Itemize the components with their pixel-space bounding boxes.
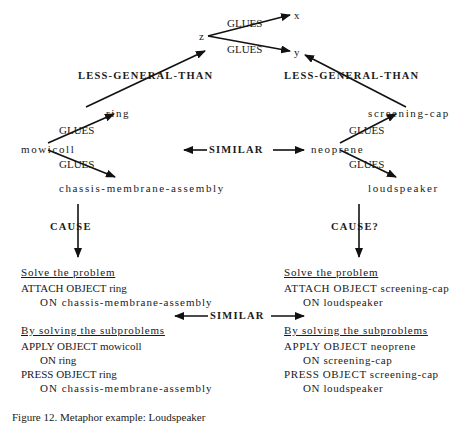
node-chassis-membrane-assembly: chassis-membrane-assembly <box>59 182 225 194</box>
left-step-2: ON ring <box>40 354 76 366</box>
node-y: y <box>294 46 300 58</box>
right-subproblems-heading: By solving the subproblems <box>284 324 428 336</box>
node-x: x <box>294 9 300 21</box>
left-problem-line2: ON chassis-membrane-assembly <box>40 296 213 308</box>
relation-similar-bottom: SIMILAR <box>210 310 265 322</box>
left-problem-heading: Solve the problem <box>21 266 115 278</box>
left-step-1: APPLY OBJECT mowicoll <box>21 340 142 352</box>
node-screening-cap: screening-cap <box>368 107 450 119</box>
right-problem-line2: ON loudspeaker <box>303 296 383 308</box>
right-step-4: ON loudspeaker <box>303 382 383 394</box>
relation-cause: CAUSE <box>50 221 92 233</box>
relation-glues-loudspeaker: GLUES <box>349 158 384 170</box>
figure-caption: Figure 12. Metaphor example: Loudspeaker <box>12 411 205 423</box>
left-step-4: ON chassis-membrane-assembly <box>40 382 213 394</box>
right-step-3: PRESS OBJECT screening-cap <box>284 368 439 380</box>
right-problem-line1: ATTACH OBJECT screening-cap <box>284 282 449 294</box>
right-step-2: ON screening-cap <box>303 354 392 366</box>
right-step-1: APPLY OBJECT neoprene <box>284 340 416 352</box>
left-problem-line1: ATTACH OBJECT ring <box>21 282 127 294</box>
relation-glues-screening-cap: GLUES <box>349 124 384 136</box>
relation-glues-chassis: GLUES <box>59 158 94 170</box>
relation-glues-ring: GLUES <box>59 124 94 136</box>
left-subproblems-heading: By solving the subproblems <box>21 324 165 336</box>
relation-similar-top: SIMILAR <box>209 144 264 156</box>
node-neoprene: neoprene <box>311 143 364 155</box>
node-ring: ring <box>106 107 130 119</box>
node-z: z <box>199 30 204 42</box>
left-step-3: PRESS OBJECT ring <box>21 368 117 380</box>
relation-less-general-left: LESS-GENERAL-THAN <box>78 70 213 82</box>
relation-glues-zx: GLUES <box>227 17 262 29</box>
relation-cause-question: CAUSE? <box>331 221 379 233</box>
relation-glues-zy: GLUES <box>227 43 262 55</box>
right-problem-heading: Solve the problem <box>284 266 378 278</box>
node-loudspeaker: loudspeaker <box>368 182 439 194</box>
relation-less-general-right: LESS-GENERAL-THAN <box>284 70 419 82</box>
node-mowicoll: mowicoll <box>21 143 75 155</box>
